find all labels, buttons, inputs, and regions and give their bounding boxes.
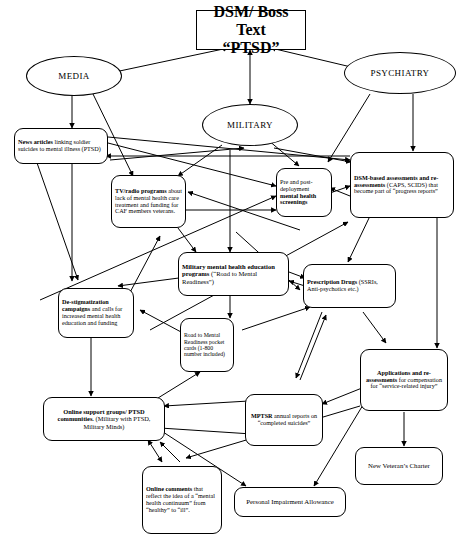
- node-label-rest: (Military with PTSD, Military Minds): [83, 415, 150, 429]
- node-news-articles[interactable]: News articles linking soldier suicides t…: [14, 128, 108, 164]
- node-label-bold: Online comments: [146, 485, 192, 492]
- diagram-canvas: DSM/ Boss Text “PTSD” MEDIA PSYCHIATRY M…: [0, 0, 464, 544]
- node-label: New Veteran’s Charter: [356, 462, 442, 470]
- node-label: MILITARY: [224, 120, 276, 130]
- node-label: Online comments that reflect the idea of…: [143, 486, 221, 514]
- node-new-veterans-charter[interactable]: New Veteran’s Charter: [355, 447, 443, 485]
- node-mptsr-annual-reports[interactable]: MPTSR annual reports on “completed suici…: [245, 394, 323, 446]
- node-prescription-drugs[interactable]: Prescription Drugs (SSRIs, Anti-psychoti…: [303, 264, 396, 308]
- node-media[interactable]: MEDIA: [26, 56, 122, 96]
- node-psychiatry[interactable]: PSYCHIATRY: [344, 52, 456, 94]
- node-label: Road to Mental Readiness pocket cards (1…: [181, 332, 233, 358]
- node-label: DSM/ Boss Text: [197, 3, 305, 39]
- node-label: PSYCHIATRY: [367, 68, 432, 78]
- node-label-rest: Pre and post-deployment: [280, 178, 313, 192]
- node-label: Applications and re-assessments for comp…: [361, 370, 447, 391]
- node-label-bold: TV/radio programs: [115, 187, 167, 194]
- node-label: Military mental health education program…: [179, 263, 288, 285]
- node-label-bold: News articles: [18, 138, 53, 145]
- node-label: TV/radio programs about lack of mental h…: [112, 188, 185, 216]
- node-label: MPTSR annual reports on “completed suici…: [246, 413, 322, 427]
- node-label: Prescription Drugs (SSRIs, Anti-psychoti…: [304, 279, 395, 293]
- node-label-bold: Prescription Drugs: [307, 278, 357, 285]
- node-label-bold: MPTSR: [251, 412, 273, 419]
- node-label: Online support groups/ PTSD communities.…: [44, 408, 164, 430]
- node-label: Pre and post-deployment mental health sc…: [277, 179, 331, 207]
- node-deployment-screenings[interactable]: Pre and post-deployment mental health sc…: [276, 168, 332, 217]
- node-dsm-boss-text[interactable]: DSM/ Boss Text “PTSD”: [196, 10, 306, 50]
- node-label: MEDIA: [55, 71, 93, 81]
- node-destigmatization-campaigns[interactable]: De-stigmatization campaigns and calls fo…: [58, 288, 134, 338]
- node-applications-reassessments[interactable]: Applications and re-assessments for comp…: [360, 349, 448, 411]
- node-dsm-assessments[interactable]: DSM-based assessments and re-assessments…: [350, 152, 454, 218]
- node-military-education-programs[interactable]: Military mental health education program…: [178, 252, 289, 296]
- node-label: Personal Impairment Allowance: [235, 498, 345, 506]
- node-military[interactable]: MILITARY: [202, 104, 298, 146]
- node-pocket-cards[interactable]: Road to Mental Readiness pocket cards (1…: [180, 318, 234, 372]
- node-label: De-stigmatization campaigns and calls fo…: [59, 299, 133, 327]
- node-tv-radio-programs[interactable]: TV/radio programs about lack of mental h…: [111, 175, 186, 228]
- node-label: News articles linking soldier suicides t…: [15, 139, 107, 153]
- node-online-comments[interactable]: Online comments that reflect the idea of…: [142, 466, 222, 534]
- node-label-2: “PTSD”: [197, 39, 305, 57]
- node-label: DSM-based assessments and re-assessments…: [351, 175, 453, 196]
- node-label-bold: mental health screenings: [280, 192, 316, 206]
- node-online-support-groups[interactable]: Online support groups/ PTSD communities.…: [43, 397, 165, 441]
- node-personal-impairment-allowance[interactable]: Personal Impairment Allowance: [234, 487, 346, 517]
